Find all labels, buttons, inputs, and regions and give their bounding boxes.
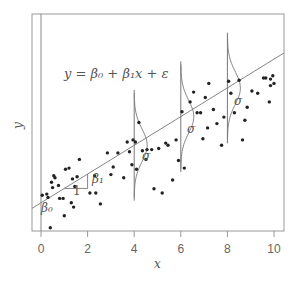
data-point	[67, 166, 70, 169]
x-tick-label: 8	[224, 242, 231, 256]
data-point	[63, 214, 66, 217]
data-point	[94, 191, 97, 194]
data-point	[46, 196, 49, 199]
data-point	[166, 144, 169, 147]
data-point	[161, 191, 164, 194]
beta0-label: β₀	[40, 201, 53, 215]
data-point	[64, 168, 67, 171]
data-point	[271, 74, 274, 77]
slope-run-label: 1	[73, 184, 81, 198]
x-axis-ticks: 0246810	[38, 231, 281, 256]
sigma-label-6: σ	[187, 122, 196, 136]
data-point	[220, 144, 223, 147]
data-point	[50, 181, 53, 184]
data-point	[75, 175, 78, 178]
data-point	[112, 165, 115, 168]
data-point	[177, 159, 180, 162]
data-point	[183, 166, 186, 169]
data-point	[268, 100, 271, 103]
data-point	[130, 163, 133, 166]
x-tick-label: 4	[131, 242, 138, 256]
normal-density-curve	[181, 65, 194, 169]
data-point	[128, 150, 131, 153]
data-point	[269, 84, 272, 87]
data-point	[188, 100, 191, 103]
data-point	[180, 110, 183, 113]
data-point	[269, 77, 272, 80]
data-point	[152, 187, 155, 190]
data-point	[264, 76, 267, 79]
x-tick-label: 2	[84, 242, 91, 256]
data-point	[53, 176, 56, 179]
data-point	[150, 148, 153, 151]
data-point	[174, 138, 177, 141]
data-point	[49, 226, 52, 229]
data-point	[237, 79, 240, 82]
data-point	[116, 151, 119, 154]
data-point	[58, 197, 61, 200]
regression-chart: 0246810 y = β₀ + β₁x + ε β₀ 1 β₁ σ σ σ x…	[0, 0, 298, 281]
x-tick-label: 0	[38, 242, 45, 256]
data-point	[88, 191, 91, 194]
data-point	[157, 147, 160, 150]
data-point	[204, 96, 207, 99]
data-point	[41, 194, 44, 197]
x-tick-label: 10	[267, 242, 281, 256]
sigma-label-4: σ	[142, 149, 151, 163]
x-tick-label: 6	[177, 242, 184, 256]
data-point	[246, 106, 249, 109]
data-point	[78, 158, 81, 161]
data-point	[272, 82, 275, 85]
plot-frame	[32, 14, 284, 231]
data-point	[134, 140, 137, 143]
data-point	[233, 111, 236, 114]
data-point	[61, 197, 64, 200]
data-point	[229, 92, 232, 95]
data-point	[241, 138, 244, 141]
data-point	[122, 176, 125, 179]
data-point	[126, 140, 129, 143]
data-point	[137, 121, 140, 124]
equation-label: y = β₀ + β₁x + ε	[63, 66, 169, 81]
data-point	[199, 111, 202, 114]
data-point	[99, 202, 102, 205]
data-point	[256, 92, 259, 95]
data-point	[57, 184, 60, 187]
data-point	[109, 173, 112, 176]
normal-density-curve	[134, 93, 147, 197]
x-axis-label: x	[154, 257, 161, 271]
data-point	[227, 80, 230, 83]
data-point	[222, 115, 225, 118]
data-point	[207, 82, 210, 85]
data-point	[212, 108, 215, 111]
normal-density-curve	[228, 36, 241, 140]
data-point	[195, 111, 198, 114]
sigma-label-8: σ	[234, 94, 243, 108]
data-point	[135, 168, 138, 171]
data-point	[243, 119, 246, 122]
data-point	[250, 89, 253, 92]
data-point	[71, 177, 74, 180]
data-point	[201, 137, 204, 140]
data-point	[45, 192, 48, 195]
data-point	[171, 178, 174, 181]
data-point	[192, 90, 195, 93]
data-point	[72, 205, 75, 208]
data-point	[215, 122, 218, 125]
data-point	[70, 201, 73, 204]
data-point	[206, 126, 209, 129]
y-axis-label: y	[11, 122, 25, 130]
data-point	[51, 186, 54, 189]
data-point	[106, 151, 109, 154]
beta1-label: β₁	[91, 172, 104, 186]
